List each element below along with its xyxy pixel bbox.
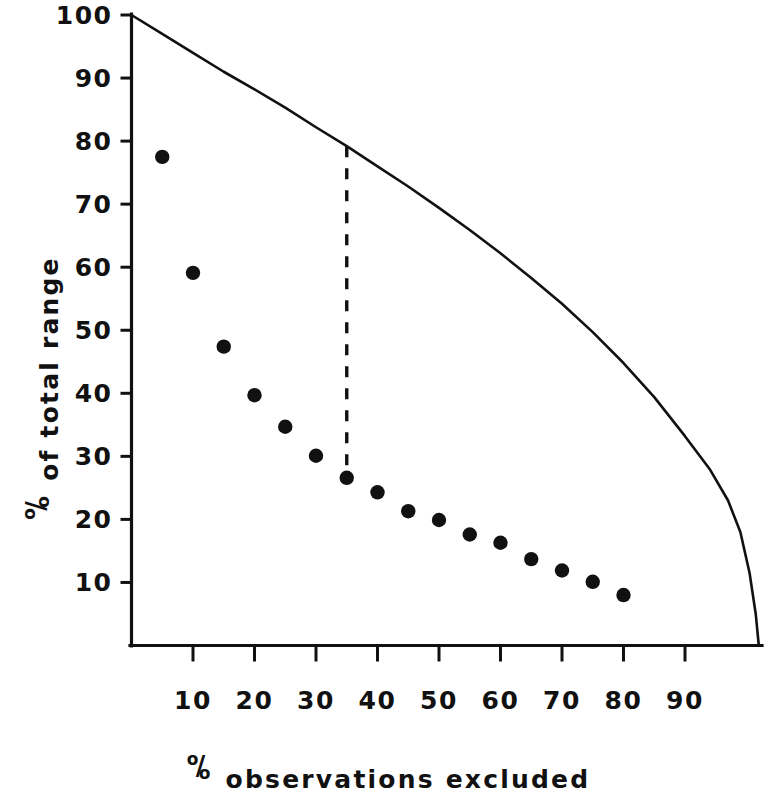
x-axis-title: o/o observations excluded — [0, 758, 777, 794]
data-point — [401, 504, 415, 518]
data-point — [555, 563, 569, 577]
scatter-series — [155, 150, 631, 603]
x-tick-label: 10 — [174, 686, 212, 715]
chart-canvas: 102030405060708090100 102030405060708090 — [0, 0, 777, 812]
data-point — [186, 266, 200, 280]
y-tick-label: 70 — [75, 190, 113, 219]
x-tick-label: 80 — [605, 686, 643, 715]
x-tick-label: 30 — [297, 686, 335, 715]
data-point — [586, 575, 600, 589]
data-point — [155, 150, 169, 164]
chart-figure: 102030405060708090100 102030405060708090… — [0, 0, 777, 812]
data-point — [370, 485, 384, 499]
y-tick-label: 10 — [75, 568, 113, 597]
percent-glyph-icon: o/o — [28, 492, 58, 520]
data-point — [217, 339, 231, 353]
data-point — [616, 588, 630, 602]
data-point — [463, 527, 477, 541]
y-tick-label: 50 — [75, 316, 113, 345]
y-tick-label: 90 — [75, 64, 113, 93]
percent-glyph-icon: o/o — [187, 758, 215, 788]
x-tick-label: 50 — [420, 686, 458, 715]
data-point — [340, 471, 354, 485]
theoretical-boundary-curve — [132, 15, 759, 646]
x-tick-label: 90 — [666, 686, 704, 715]
y-axis-title: o/o of total range — [28, 238, 64, 538]
x-tick-group: 102030405060708090 — [174, 646, 704, 715]
data-point — [524, 552, 538, 566]
y-axis-title-text: of total range — [35, 256, 64, 481]
x-axis-title-text: observations excluded — [226, 765, 591, 794]
y-tick-group: 102030405060708090100 — [56, 1, 132, 597]
axis-group — [130, 14, 762, 646]
data-point — [432, 513, 446, 527]
data-point — [493, 536, 507, 550]
x-tick-label: 40 — [359, 686, 397, 715]
y-tick-label: 80 — [75, 127, 113, 156]
y-tick-label: 30 — [75, 442, 113, 471]
x-tick-label: 60 — [482, 686, 520, 715]
x-tick-label: 70 — [543, 686, 581, 715]
y-tick-label: 40 — [75, 379, 113, 408]
x-tick-label: 20 — [236, 686, 274, 715]
y-tick-label: 60 — [75, 253, 113, 282]
data-point — [309, 449, 323, 463]
y-tick-label: 20 — [75, 505, 113, 534]
data-point — [247, 388, 261, 402]
y-tick-label: 100 — [56, 1, 113, 30]
data-point — [278, 420, 292, 434]
